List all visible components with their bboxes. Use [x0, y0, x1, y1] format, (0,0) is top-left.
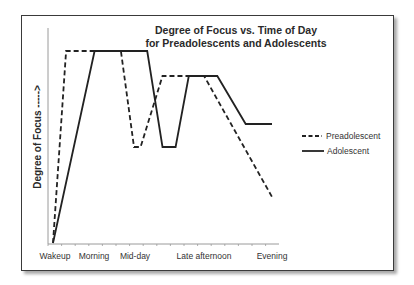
y-axis-label: Degree of Focus -----> [32, 85, 43, 189]
legend-label-adolescent: Adolescent [327, 146, 370, 156]
legend: Preadolescent Adolescent [302, 131, 381, 156]
x-tick-midday: Mid-day [120, 251, 151, 261]
series-line-adolescent [53, 51, 272, 243]
legend-label-preadolescent: Preadolescent [326, 131, 381, 141]
chart-title: Degree of Focus vs. Time of Day [155, 24, 317, 36]
line-chart: Degree of Focus vs. Time of Day for Prea… [0, 0, 414, 285]
series-layer [53, 51, 272, 243]
x-tick-wakeup: Wakeup [40, 251, 71, 261]
x-tick-morning: Morning [79, 251, 110, 261]
chart-subtitle: for Preadolescents and Adolescents [145, 37, 326, 49]
x-tick-evening: Evening [257, 251, 288, 261]
x-tick-late-afternoon: Late afternoon [177, 251, 232, 261]
